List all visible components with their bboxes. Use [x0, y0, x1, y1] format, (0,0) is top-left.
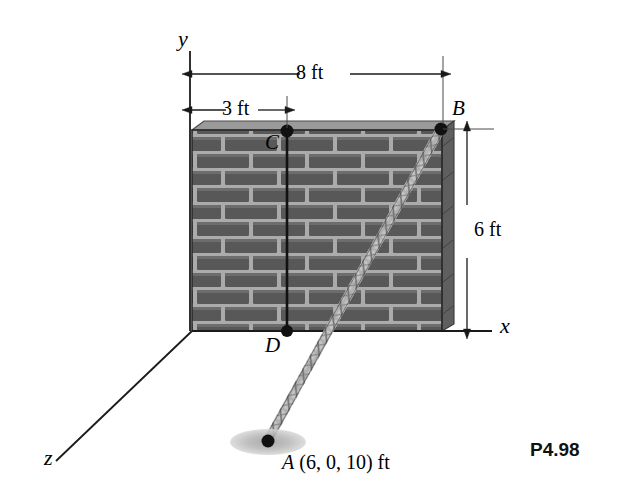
point-label-A: A (6, 0, 10) ft — [282, 452, 390, 472]
point-marker-D — [281, 325, 293, 337]
x-axis-label: x — [500, 315, 510, 337]
point-label-A-letter: A — [282, 451, 294, 473]
y-axis-label: y — [178, 28, 188, 50]
figure-p4-98: y x z 8 ft 3 ft 6 ft B C D A (6, 0, 10) … — [0, 0, 625, 492]
point-label-A-coords: (6, 0, 10) ft — [299, 451, 390, 473]
problem-label: P4.98 — [530, 440, 580, 459]
z-axis-line — [56, 331, 192, 461]
point-marker-A — [262, 435, 275, 448]
brick-wall — [192, 121, 454, 331]
z-axis-label: z — [44, 447, 53, 469]
dimension-label-8ft: 8 ft — [296, 62, 323, 82]
point-label-C: C — [265, 132, 279, 153]
point-label-B: B — [452, 98, 465, 119]
point-label-D: D — [265, 335, 280, 356]
dimension-label-6ft: 6 ft — [474, 219, 501, 239]
dimension-label-3ft: 3 ft — [222, 98, 249, 118]
